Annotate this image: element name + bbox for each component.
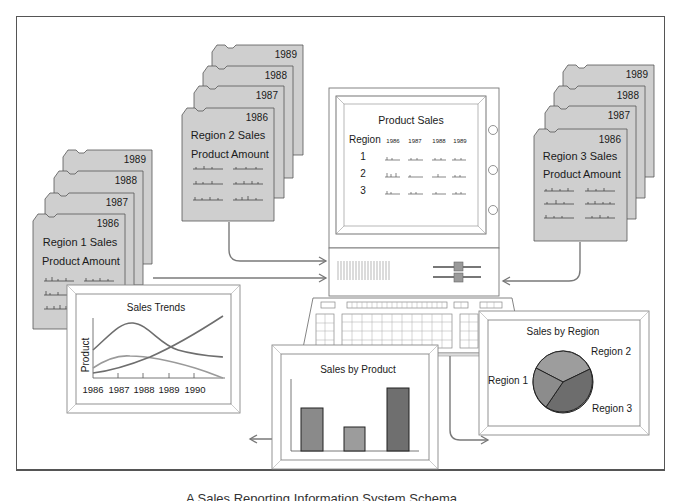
- screen-row-header: Region: [349, 134, 381, 145]
- x-tick-label: 1988: [133, 384, 154, 395]
- screen-row-label: 1: [360, 151, 366, 162]
- monitor-knob: [489, 206, 498, 215]
- column-header-amount: Amount: [231, 148, 269, 160]
- x-tick-label: 1986: [82, 384, 103, 395]
- monitor-knob: [489, 166, 498, 175]
- card-title: Region 3 Sales: [543, 150, 618, 162]
- year-label: 1987: [106, 197, 129, 208]
- x-tick-label: 1987: [108, 384, 129, 395]
- card-title: Region 1 Sales: [43, 236, 118, 248]
- region-2-file-stack: 1989 1988 1987 1986 Region 2 Sales Produ…: [182, 45, 303, 221]
- column-header-amount: Amount: [583, 168, 621, 180]
- column-header-product: Product: [42, 255, 80, 267]
- year-label: 1989: [626, 69, 649, 80]
- screen-year: 1987: [408, 138, 422, 144]
- year-label: 1987: [256, 90, 279, 101]
- year-label: 1989: [275, 49, 298, 60]
- year-label: 1988: [115, 175, 138, 186]
- figure-caption: A Sales Reporting Information System Sch…: [186, 490, 457, 501]
- sales-trends-chart: Sales Trends Product 1986 1987 1988 1989…: [67, 285, 240, 413]
- bar-product-1: [301, 408, 323, 451]
- region-3-card-1986: 1986 Region 3 Sales Product Amount: [534, 129, 627, 241]
- sales-by-product-chart: Sales by Product: [272, 345, 438, 469]
- chart-title: Sales by Product: [320, 364, 396, 375]
- screen-year: 1986: [386, 138, 400, 144]
- sales-by-region-chart: Sales by Region Region 1 Region 2 Region…: [479, 311, 649, 435]
- screen-row-label: 2: [360, 168, 366, 179]
- x-tick-label: 1990: [184, 384, 205, 395]
- arrow-region2-to-computer: [229, 222, 326, 261]
- diagram-canvas: 1989 1988 1987 1986 Region 1 Sales Produ…: [0, 0, 675, 501]
- region-3-file-stack: 1989 1988 1987 1986 Region 3 Sales Produ…: [534, 65, 654, 241]
- year-label: 1986: [599, 134, 622, 145]
- screen-title: Product Sales: [378, 114, 443, 126]
- year-label: 1986: [97, 218, 120, 229]
- monitor: Product Sales Region 1986 1987 1988 1989…: [329, 88, 499, 248]
- card-title: Region 2 Sales: [191, 129, 266, 141]
- year-label: 1988: [617, 90, 640, 101]
- pie-label-region-2: Region 2: [591, 346, 631, 357]
- column-header-product: Product: [191, 148, 229, 160]
- y-axis-label: Product: [80, 338, 91, 373]
- column-header-amount: Amount: [82, 255, 120, 267]
- chart-title: Sales by Region: [527, 326, 600, 337]
- pie-label-region-1: Region 1: [488, 375, 528, 386]
- x-tick-label: 1989: [158, 384, 179, 395]
- system-unit: [329, 248, 499, 296]
- year-label: 1987: [608, 110, 631, 121]
- bar-product-2: [344, 427, 365, 451]
- screen-row-label: 3: [360, 185, 366, 196]
- arrow-region3-to-computer: [503, 242, 580, 281]
- column-header-product: Product: [543, 168, 581, 180]
- year-label: 1989: [124, 154, 147, 165]
- screen-year: 1988: [432, 138, 446, 144]
- pie-label-region-3: Region 3: [592, 403, 632, 414]
- chart-title: Sales Trends: [127, 302, 185, 313]
- year-label: 1988: [265, 70, 288, 81]
- bar-product-3: [387, 388, 409, 451]
- pie: [533, 351, 593, 413]
- region-2-card-1986: 1986 Region 2 Sales Product Amount: [182, 108, 274, 221]
- monitor-knob: [489, 126, 498, 135]
- year-label: 1986: [246, 112, 269, 123]
- screen-year: 1989: [453, 138, 467, 144]
